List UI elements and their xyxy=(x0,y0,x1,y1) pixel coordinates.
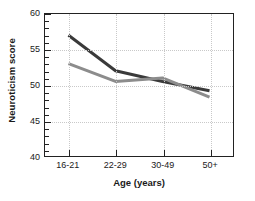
gridline-vertical xyxy=(164,14,165,156)
y-axis-title-text: Neuroticism score xyxy=(6,38,17,123)
y-tick-major xyxy=(45,14,51,15)
series-line-dark-series xyxy=(69,35,210,90)
y-axis-title: Neuroticism score xyxy=(0,0,22,160)
plot-area xyxy=(44,13,234,157)
x-axis-tick-labels: 16-2122-2930-4950+ xyxy=(44,160,234,174)
y-tick-label: 50 xyxy=(30,80,40,90)
x-tick-major xyxy=(69,150,70,156)
x-tick-major xyxy=(164,150,165,156)
y-tick-label: 40 xyxy=(30,152,40,162)
x-tick-label: 16-21 xyxy=(56,160,79,170)
y-tick-minor xyxy=(45,136,49,137)
neuroticism-age-line-chart: Neuroticism score 4045505560 16-2122-293… xyxy=(0,0,255,201)
y-tick-minor xyxy=(45,64,49,65)
x-tick-label: 22-29 xyxy=(104,160,127,170)
plot-inner xyxy=(45,14,233,156)
y-tick-minor xyxy=(45,36,49,37)
y-tick-label: 45 xyxy=(30,116,40,126)
gridline-vertical xyxy=(211,14,212,156)
y-tick-minor xyxy=(45,43,49,44)
gridline-horizontal xyxy=(45,86,233,87)
y-tick-major xyxy=(45,86,51,87)
y-tick-minor xyxy=(45,21,49,22)
y-tick-minor xyxy=(45,151,49,152)
y-tick-minor xyxy=(45,115,49,116)
x-axis-title: Age (years) xyxy=(44,177,234,188)
series-line-gray-series xyxy=(69,64,210,97)
series-overlay xyxy=(45,14,233,156)
y-tick-minor xyxy=(45,144,49,145)
gridline-vertical xyxy=(69,14,70,156)
y-tick-minor xyxy=(45,28,49,29)
x-tick-major xyxy=(116,150,117,156)
x-tick-major xyxy=(211,150,212,156)
x-tick-label: 30-49 xyxy=(151,160,174,170)
y-tick-minor xyxy=(45,129,49,130)
y-tick-label: 55 xyxy=(30,44,40,54)
gridline-horizontal xyxy=(45,122,233,123)
x-tick-label: 50+ xyxy=(203,160,218,170)
gridline-horizontal xyxy=(45,50,233,51)
y-tick-label: 60 xyxy=(30,8,40,18)
y-tick-minor xyxy=(45,72,49,73)
y-tick-minor xyxy=(45,57,49,58)
y-tick-major xyxy=(45,50,51,51)
y-axis-tick-labels: 4045505560 xyxy=(20,13,42,157)
gridline-vertical xyxy=(116,14,117,156)
y-tick-major xyxy=(45,122,51,123)
y-tick-minor xyxy=(45,108,49,109)
y-tick-minor xyxy=(45,100,49,101)
y-tick-minor xyxy=(45,93,49,94)
y-tick-minor xyxy=(45,79,49,80)
